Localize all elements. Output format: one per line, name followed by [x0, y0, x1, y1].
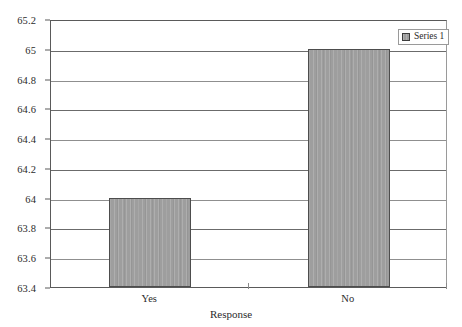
bar-no[interactable] [308, 49, 390, 287]
x-axis-title: Response [0, 308, 462, 320]
legend-label-series-1: Series 1 [414, 32, 444, 42]
y-tick-mark [45, 288, 50, 289]
x-tick-label-no: No [341, 293, 354, 304]
bar-chart: 65.26564.864.664.464.26463.863.663.4 Res… [0, 0, 462, 327]
y-tick-mark [45, 258, 50, 259]
y-tick-mark [45, 168, 50, 169]
y-tick-label: 64 [25, 193, 36, 204]
y-tick-mark [45, 228, 50, 229]
plot-area [50, 20, 447, 288]
x-tick-label-yes: Yes [142, 293, 157, 304]
y-tick-mark [45, 109, 50, 110]
legend-swatch-series-1 [402, 33, 410, 41]
y-tick-label: 65.2 [17, 15, 36, 26]
chart-legend[interactable]: Series 1 [398, 29, 449, 45]
y-tick-mark [45, 49, 50, 50]
x-axis-right-tick [446, 283, 447, 289]
y-tick-mark [45, 198, 50, 199]
y-tick-label: 64.4 [17, 134, 36, 145]
y-tick-label: 65 [25, 44, 36, 55]
y-tick-label: 63.4 [17, 283, 36, 294]
y-tick-label: 63.6 [17, 253, 36, 264]
y-tick-label: 64.8 [17, 74, 36, 85]
y-tick-label: 64.2 [17, 163, 36, 174]
x-axis-mid-tick [248, 283, 249, 289]
y-tick-label: 63.8 [17, 223, 36, 234]
bars-layer [51, 21, 446, 287]
y-tick-mark [45, 20, 50, 21]
y-tick-label: 64.6 [17, 104, 36, 115]
y-axis: 65.26564.864.664.464.26463.863.663.4 [0, 0, 44, 327]
y-tick-mark [45, 79, 50, 80]
y-tick-mark [45, 139, 50, 140]
bar-yes[interactable] [109, 198, 191, 287]
